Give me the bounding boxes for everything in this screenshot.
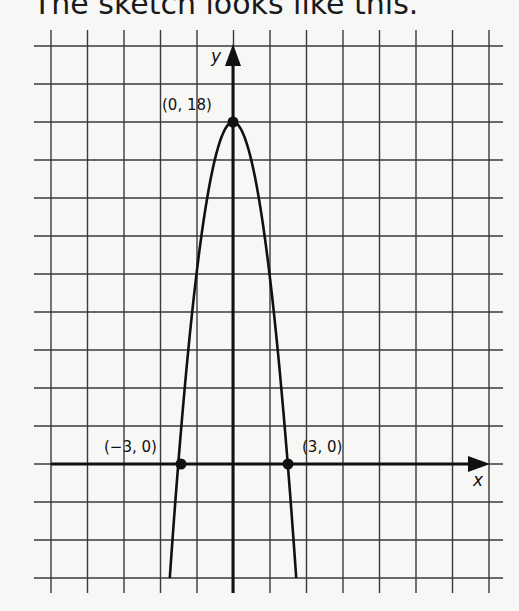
x-axis-label: x	[472, 470, 484, 490]
left-root-point	[176, 459, 187, 470]
left-root-label: (−3, 0)	[104, 438, 157, 456]
y-axis-label: y	[210, 46, 222, 66]
graph: y x (0, 18) (−3, 0) (3, 0)	[0, 0, 519, 611]
y-axis-arrow-icon	[225, 44, 241, 66]
right-root-label: (3, 0)	[302, 438, 342, 456]
vertex-point	[228, 117, 239, 128]
vertex-label: (0, 18)	[162, 96, 212, 114]
right-root-point	[283, 459, 294, 470]
grid	[34, 30, 503, 593]
